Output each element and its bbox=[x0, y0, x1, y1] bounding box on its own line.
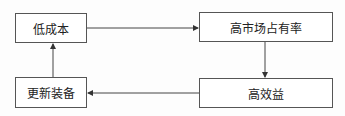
node-high-profit: 高效益 bbox=[199, 78, 333, 108]
node-label: 低成本 bbox=[33, 20, 69, 37]
node-label: 高效益 bbox=[248, 85, 284, 102]
node-label: 高市场占有率 bbox=[230, 19, 302, 36]
node-label: 更新装备 bbox=[27, 84, 75, 101]
node-high-market-share: 高市场占有率 bbox=[199, 12, 333, 42]
flowchart-canvas: 低成本 高市场占有率 高效益 更新装备 bbox=[0, 0, 345, 116]
node-update-equipment: 更新装备 bbox=[15, 77, 87, 108]
node-low-cost: 低成本 bbox=[15, 13, 87, 43]
